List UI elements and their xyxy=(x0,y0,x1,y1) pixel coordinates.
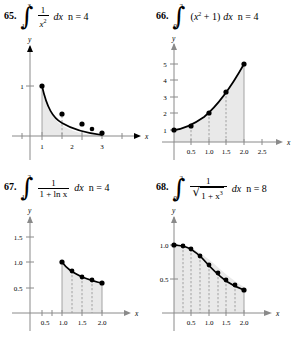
fraction-numerator: 1 xyxy=(39,5,48,15)
problem-66-statement: 66. ∫ 2 0 (x2 + 1) dxn = 4 xyxy=(156,5,302,35)
x-axis-arrow xyxy=(264,310,272,316)
problem-68: 68. ∫ 2 0 1 √ 1 + x3 d xyxy=(152,171,304,341)
data-point xyxy=(90,278,95,283)
y-axis-arrow xyxy=(27,216,33,223)
y-tick-label: 0.5 xyxy=(160,276,169,284)
radicand: 1 + x3 xyxy=(200,187,224,201)
partition-count: n = 4 xyxy=(89,183,110,193)
x-tick-label: 1.5 xyxy=(222,319,231,327)
problem-65-statement: 65. ∫ 3 1 1 x2 dxn = 4 xyxy=(4,5,150,35)
x-tick-label: 1.0 xyxy=(205,319,214,327)
differential: dx xyxy=(223,12,232,22)
data-point xyxy=(207,263,212,268)
data-point xyxy=(99,280,104,285)
differential: dx xyxy=(232,184,241,194)
integral-upper-limit: 2 xyxy=(180,175,184,182)
x-axis-arrow xyxy=(276,139,283,145)
data-point xyxy=(90,127,95,132)
y-axis-arrow xyxy=(27,45,33,52)
y-tick-label: 1.5 xyxy=(14,234,23,242)
data-point xyxy=(206,110,211,115)
data-point xyxy=(223,89,228,94)
x-axis-arrow xyxy=(134,133,141,139)
x-axis-label: x xyxy=(275,309,280,318)
problem-66-graph: 1 2 3 4 5 0.5 1.0 1.5 2.0 2.5 x y xyxy=(152,34,304,170)
integral-upper-limit: 2 xyxy=(28,174,32,181)
partition-count: n = 4 xyxy=(68,12,89,22)
data-point xyxy=(171,127,176,132)
y-tick-label: 3 xyxy=(163,94,167,102)
y-axis-arrow xyxy=(171,216,177,223)
integrand: (x2 + 1) xyxy=(191,11,221,22)
data-point xyxy=(59,111,64,116)
y-tick-label: 2 xyxy=(163,110,167,118)
fraction-numerator: 1 xyxy=(204,176,213,186)
fraction: 1 √ 1 + x3 xyxy=(190,176,227,201)
problem-66-expression: ∫ 2 0 (x2 + 1) dxn = 4 xyxy=(173,5,259,29)
square-root: √ 1 + x3 xyxy=(193,187,224,201)
fraction-denominator: x2 xyxy=(38,16,49,29)
problem-67-statement: 67. ∫ 2 1 1 1 + ln x dxn = 4 xyxy=(4,176,150,206)
x-tick-label: 1 xyxy=(40,143,44,151)
problem-65: 65. ∫ 3 1 1 x2 dxn = 4 xyxy=(0,0,152,170)
integral-upper-limit: 2 xyxy=(180,3,184,10)
data-point xyxy=(224,278,229,283)
x-tick-label: 0.5 xyxy=(187,148,196,156)
data-point xyxy=(39,83,44,88)
integral-sign: ∫ 3 1 xyxy=(21,5,34,29)
problem-67: 67. ∫ 2 1 1 1 + ln x dxn = 4 xyxy=(0,171,152,341)
x-tick-label: 1.0 xyxy=(205,148,214,156)
problem-65-expression: ∫ 3 1 1 x2 dxn = 4 xyxy=(21,5,89,29)
problem-68-graph: 0.5 1.0 0.5 1.0 1.5 2.0 x y xyxy=(152,205,304,341)
graph-65-svg: 1 2 3 1 x y xyxy=(0,34,152,170)
fraction: 1 x2 xyxy=(38,5,49,29)
x-tick-label: 1.0 xyxy=(59,319,68,327)
problem-68-expression: ∫ 2 0 1 √ 1 + x3 dxn = 8 xyxy=(173,176,267,201)
data-point xyxy=(181,244,186,249)
data-point xyxy=(198,254,203,259)
differential: dx xyxy=(74,183,83,193)
fraction-numerator: 1 xyxy=(49,178,58,188)
data-point xyxy=(59,259,64,264)
x-tick-label: 1.5 xyxy=(78,319,87,327)
y-tick-label: 1.0 xyxy=(14,259,23,267)
x-tick-label: 2.5 xyxy=(258,148,267,156)
problem-67-expression: ∫ 2 1 1 1 + ln x dxn = 4 xyxy=(21,176,110,200)
y-axis-label: y xyxy=(171,206,176,215)
integral-sign: ∫ 2 0 xyxy=(173,177,186,201)
integral-upper-limit: 3 xyxy=(28,3,32,10)
fraction-denominator: 1 + ln x xyxy=(38,189,70,199)
y-tick-label: 4 xyxy=(163,77,167,85)
exercise-page: 65. ∫ 3 1 1 x2 dxn = 4 xyxy=(0,0,304,341)
graph-68-svg: 0.5 1.0 0.5 1.0 1.5 2.0 x y xyxy=(152,205,304,341)
y-axis-arrow xyxy=(171,43,177,50)
x-tick-label: 2.0 xyxy=(240,319,249,327)
partition-count: n = 4 xyxy=(238,12,259,22)
integral-lower-limit: 1 xyxy=(22,194,26,201)
data-point xyxy=(171,242,176,247)
x-tick-label: 1.5 xyxy=(222,148,231,156)
x-tick-label: 3 xyxy=(100,143,104,151)
problem-67-graph: 0.5 1.0 1.5 0.5 1.0 1.5 2.0 x y xyxy=(0,205,152,341)
integral-lower-limit: 0 xyxy=(174,23,178,30)
y-axis-label: y xyxy=(27,206,32,215)
x-axis-arrow xyxy=(124,310,131,316)
x-axis-label: x xyxy=(134,309,139,318)
x-tick-label: 2.0 xyxy=(240,148,249,156)
y-tick-label: 5 xyxy=(163,61,167,69)
y-tick-label: 1.0 xyxy=(160,242,169,250)
integral-sign: ∫ 2 1 xyxy=(21,176,34,200)
data-point xyxy=(233,283,238,288)
problem-66-number: 66. xyxy=(156,5,169,27)
problem-67-number: 67. xyxy=(4,176,17,198)
radical-icon: √ xyxy=(193,187,201,201)
problem-68-number: 68. xyxy=(156,176,169,198)
integral-lower-limit: 1 xyxy=(22,23,26,30)
data-point xyxy=(188,123,193,128)
fraction-denominator: √ 1 + x3 xyxy=(190,187,227,201)
x-tick-label: 2 xyxy=(70,143,74,151)
data-point xyxy=(80,275,85,280)
y-tick-label: 1 xyxy=(20,83,24,91)
data-point xyxy=(241,61,246,66)
data-point xyxy=(70,269,75,274)
